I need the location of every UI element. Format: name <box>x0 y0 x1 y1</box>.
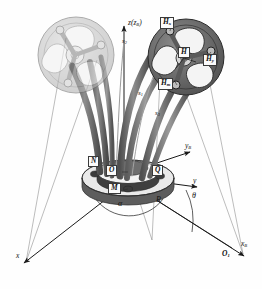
point-label-Hx: Hx <box>160 17 174 29</box>
point-label-Hy: Hy <box>203 54 217 66</box>
dimension-label-R: R <box>156 196 161 204</box>
leg-label-s3: s3 <box>155 110 160 117</box>
figure-container: z(zB) s2 s1 s3 Hx H Hy Hm N O Q M yB y x… <box>0 0 262 289</box>
point-label-O1: O1 <box>222 250 230 259</box>
mechanism-drawing <box>0 0 262 289</box>
dimension-label-alpha: α <box>118 200 122 208</box>
leg-label-s2: s2 <box>122 38 127 45</box>
axis-label-xB: xB <box>241 240 247 249</box>
axis-label-x: x <box>16 252 19 260</box>
axis-label-y: y <box>193 177 196 185</box>
point-label-O: O <box>106 165 117 176</box>
point-label-N: N <box>88 156 99 167</box>
axis-label-z: z(zB) <box>128 19 142 28</box>
point-label-H: H <box>178 47 190 58</box>
leg-label-s1: s1 <box>138 90 143 97</box>
point-label-M: M <box>108 183 121 194</box>
axis-label-yB: yB <box>185 142 191 151</box>
dimension-label-theta: θ <box>192 192 196 200</box>
end-effector-disk-initial <box>38 17 114 93</box>
point-label-Hm: Hm <box>158 78 173 90</box>
point-label-Q: Q <box>152 165 163 176</box>
